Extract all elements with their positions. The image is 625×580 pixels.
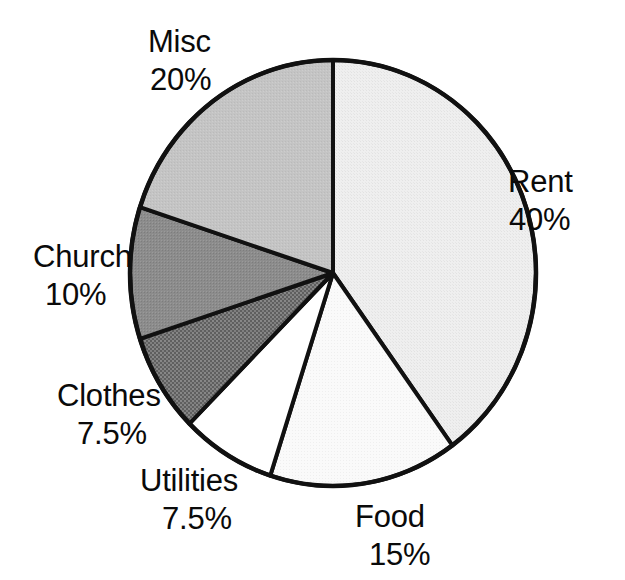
slice-label-clothes-name: Clothes	[57, 377, 161, 415]
slice-label-utilities-name: Utilities	[140, 462, 238, 500]
slice-label-misc-name: Misc	[148, 23, 211, 61]
slice-label-utilities-value: 7.5%	[140, 500, 238, 538]
slice-label-food-value: 15%	[355, 536, 430, 574]
slice-label-utilities: Utilities 7.5%	[140, 462, 238, 538]
slice-label-misc-value: 20%	[148, 61, 211, 99]
slice-label-clothes: Clothes 7.5%	[57, 377, 161, 453]
slice-label-church-name: Church	[33, 238, 132, 276]
slice-label-church: Church 10%	[33, 238, 132, 314]
slice-label-food: Food 15%	[355, 498, 430, 574]
slice-label-rent-name: Rent	[508, 163, 573, 201]
slice-label-food-name: Food	[355, 498, 430, 536]
slice-label-clothes-value: 7.5%	[57, 415, 161, 453]
slice-label-misc: Misc 20%	[148, 23, 211, 99]
slice-label-church-value: 10%	[33, 276, 132, 314]
pie-chart: Misc 20% Rent 40% Church 10% Clothes 7.5…	[0, 0, 625, 580]
slice-label-rent-value: 40%	[508, 201, 573, 239]
pie-slices-group	[130, 60, 536, 486]
slice-label-rent: Rent 40%	[508, 163, 573, 239]
